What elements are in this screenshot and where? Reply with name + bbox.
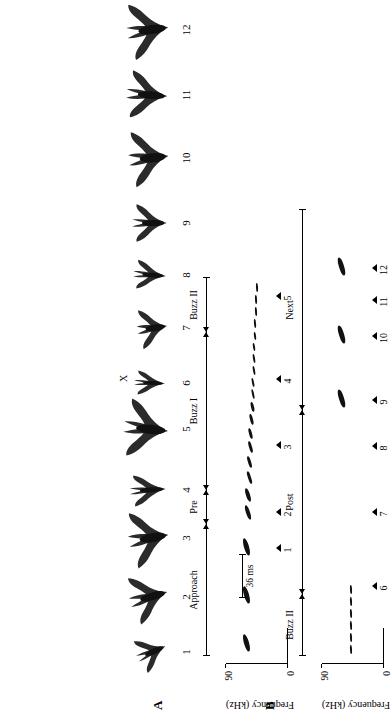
marker-number-label: 9 [378,392,389,412]
phase-bracket [302,410,303,594]
panel-a-flight-sequence: A 123456789101112 X [0,0,200,716]
frequency-axis-label: Frequency (kHz) [322,700,390,711]
echolocation-call-mark [252,366,256,375]
flight-frame [114,400,170,458]
marker-number-label: 8 [378,438,389,458]
flight-frame [120,130,170,186]
echolocation-call-mark [350,621,352,630]
phase-bracket [302,594,303,656]
flight-frame [120,510,170,566]
frequency-tick-bottom: 0 [287,664,288,668]
echolocation-call-mark [244,488,252,502]
echolocation-call-mark [251,378,255,387]
marker-arrow-icon [276,375,281,383]
echolocation-call-mark [350,597,352,606]
phase-label: Buzz II [188,278,199,332]
bat-silhouette-icon [114,567,177,630]
phase-label: Pre [188,490,199,524]
phase-bracket-arrow [203,524,209,529]
phase-label: Approach [188,524,199,656]
echolocation-call-mark [249,414,254,425]
flight-frame [126,632,170,672]
marker-arrow-icon [372,508,377,516]
phase-bracket-arrow [299,589,305,594]
echolocation-call-mark [252,343,255,351]
frequency-tick-label-top: 90 [225,671,235,681]
phase-bracket-arrow [203,332,209,337]
echolocation-call-mark [252,354,255,363]
phase-bracket-cap [299,209,306,210]
echolocation-call-mark [247,441,253,453]
echolocation-call-mark [336,389,346,409]
frequency-axis [226,663,288,664]
echolocation-call-mark [350,585,352,594]
bat-silhouette-icon [114,68,171,122]
flight-frame [118,2,170,58]
echolocation-call-mark [336,257,346,277]
marker-arrow-icon [276,292,281,300]
phase-label: Buzz II [284,594,295,656]
phase-bracket [302,210,303,410]
marker-arrow-icon [372,264,377,272]
echolocation-call-mark [246,471,253,484]
echolocation-call-mark [350,609,352,618]
bat-silhouette-icon [116,127,174,191]
spectrogram-row-lower: 900Frequency (kHz)Buzz IIPostNext6789101… [300,0,384,716]
echolocation-call-mark [251,389,255,399]
bat-silhouette-icon [109,395,174,462]
flight-frame [122,202,170,244]
frequency-tick-top: 90 [225,664,226,668]
flight-frame [122,258,170,292]
marker-arrow-icon [276,508,281,516]
bat-silhouette-icon [112,0,175,64]
flight-frame-number: 11 [180,83,192,107]
frequency-tick-label-bottom: 0 [383,671,392,676]
flight-frame-number: 12 [180,18,192,42]
flight-frame-number: 10 [180,146,192,170]
phase-bracket-arrow [203,490,209,495]
marker-arrow-icon [372,442,377,450]
phase-bracket-arrow [203,327,209,332]
echolocation-call-mark [249,402,254,412]
panel-a-letter: A [150,701,166,710]
echolocation-call-mark [244,505,252,521]
frequency-tick-label-top: 90 [321,671,331,681]
phase-bracket-arrow [299,594,305,599]
echolocation-call-mark [254,319,257,328]
marker-number-label: 7 [378,504,389,524]
echolocation-call-mark [241,634,250,653]
marker-arrow-icon [372,332,377,340]
time-scale-bar-label: 36 ms [245,554,255,598]
marker-arrow-icon [372,396,377,404]
phase-bracket-cap [203,277,210,278]
phase-bracket-arrow [299,410,305,415]
phase-bracket-arrow [299,405,305,410]
echolocation-call-mark [350,633,352,642]
marker-number-label: 6 [378,578,389,598]
time-scale-bar-line [242,554,243,598]
flight-frame [128,306,170,350]
bat-silhouette-icon [124,258,169,292]
marker-arrow-icon [276,544,281,552]
phase-bracket [206,332,207,490]
flight-frame [120,572,170,622]
marker-number-label: 12 [378,260,389,280]
flight-frame [116,70,170,120]
bat-silhouette-icon [119,472,169,508]
figure-stage: A 123456789101112 X B 900Frequency (kHz)… [0,0,392,716]
flight-frame [118,472,170,508]
marker-number-label: 10 [378,328,389,348]
bat-silhouette-icon [123,203,169,243]
frequency-axis-label: Frequency (kHz) [226,700,294,711]
frequency-tick-top: 90 [321,664,322,668]
phase-bracket-cap [299,655,306,656]
phase-label: Next [284,210,295,410]
echolocation-call-mark [350,645,352,654]
frequency-tick-bottom: 0 [383,664,384,668]
panel-b-spectrograms: B 900Frequency (kHz)ApproachPreBuzz IBuz… [200,0,392,716]
bat-silhouette-icon [127,305,172,352]
flight-frame-number: 9 [180,211,192,235]
frequency-axis [322,663,384,664]
phase-bracket [206,278,207,332]
echolocation-call-mark [255,307,258,316]
